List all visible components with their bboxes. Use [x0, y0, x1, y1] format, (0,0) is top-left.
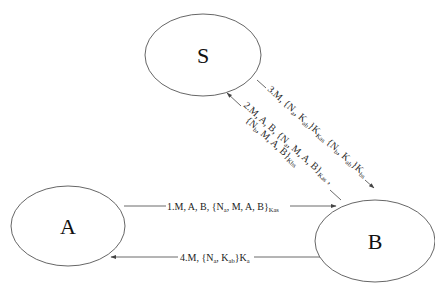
arrow-b-to-s-tail: [330, 190, 341, 200]
node-b: B: [315, 200, 435, 282]
message-4-edge: 4.M, {Na, Kab}Ka: [111, 252, 320, 264]
node-b-label: B: [368, 229, 383, 254]
message-2-edge: 2.M, A, B, {Na, M, A, B}Kas , {Nb, M, A,…: [227, 93, 341, 200]
node-s-label: S: [197, 43, 209, 68]
message-1-label: 1.M, A, B, {Na, M, A, B}Kas: [167, 201, 279, 213]
arrow-s-to-b-head: [257, 80, 266, 88]
protocol-diagram: S A B 1.M, A, B, {Na, M, A, B}Kas 4.M, {…: [0, 0, 435, 288]
node-a: A: [11, 186, 125, 266]
arrow-b-to-s: [227, 93, 241, 106]
node-s: S: [145, 14, 261, 96]
message-4-label: 4.M, {Na, Kab}Ka: [180, 252, 250, 264]
arrow-s-to-b: [365, 180, 374, 188]
message-1-edge: 1.M, A, B, {Na, M, A, B}Kas: [124, 201, 336, 213]
node-a-label: A: [60, 214, 76, 239]
